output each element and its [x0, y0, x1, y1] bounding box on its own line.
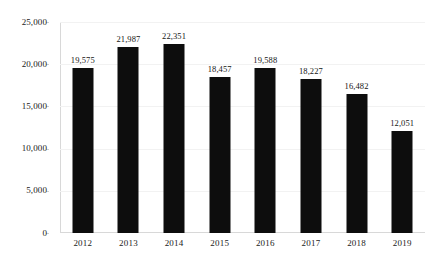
bar-group[interactable]: 19,588	[244, 22, 286, 233]
y-axis-tick-label: 20,000	[0, 60, 47, 69]
x-axis-category-label: 2014	[153, 238, 195, 248]
bar[interactable]	[209, 77, 230, 233]
x-axis-category-label: 2012	[62, 238, 104, 248]
bar-value-label: 22,351	[162, 32, 186, 41]
bar-group[interactable]: 22,351	[153, 22, 195, 233]
x-axis-category-label: 2019	[381, 238, 423, 248]
bar-group[interactable]: 16,482	[336, 22, 378, 233]
x-axis-category-label: 2018	[336, 238, 378, 248]
bar[interactable]	[72, 68, 93, 233]
bar-value-label: 21,987	[116, 35, 140, 44]
x-axis-category-label: 2015	[199, 238, 241, 248]
bar-group[interactable]: 18,227	[290, 22, 332, 233]
x-axis-category-label: 2016	[244, 238, 286, 248]
bar-value-label: 16,482	[345, 82, 369, 91]
bar-value-label: 18,457	[208, 65, 232, 74]
y-axis-tick-label: 0	[0, 229, 47, 238]
bar-group[interactable]: 12,051	[381, 22, 423, 233]
bar[interactable]	[392, 131, 413, 233]
bar-group[interactable]: 18,457	[199, 22, 241, 233]
y-axis-tick-label: 10,000	[0, 144, 47, 153]
y-axis-tick-label: 5,000	[0, 186, 47, 195]
bar-value-label: 18,227	[299, 67, 323, 76]
y-axis-tick-label: 15,000	[0, 102, 47, 111]
bar[interactable]	[346, 94, 367, 233]
bar-group[interactable]: 21,987	[107, 22, 149, 233]
bar[interactable]	[300, 79, 321, 233]
bar[interactable]	[255, 68, 276, 233]
x-axis-category-label: 2013	[107, 238, 149, 248]
plot-area: 05,00010,00015,00020,00025,00019,57521,9…	[60, 22, 425, 233]
bar-value-label: 19,588	[253, 56, 277, 65]
bar-value-label: 19,575	[71, 56, 95, 65]
bar[interactable]	[164, 44, 185, 233]
bar[interactable]	[118, 47, 139, 233]
bar-value-label: 12,051	[390, 119, 414, 128]
bar-group[interactable]: 19,575	[62, 22, 104, 233]
bar-chart: 05,00010,00015,00020,00025,00019,57521,9…	[0, 0, 430, 266]
x-axis-category-label: 2017	[290, 238, 332, 248]
y-axis-tick-label: 25,000	[0, 18, 47, 27]
